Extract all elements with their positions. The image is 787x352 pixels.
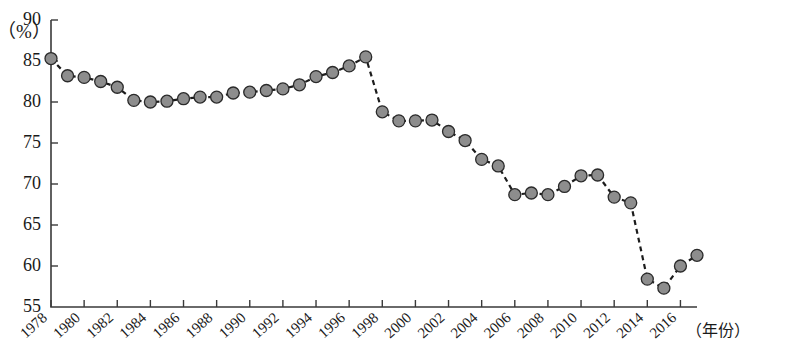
x-axis-tick-label: 1994 bbox=[282, 309, 315, 341]
data-point-marker bbox=[144, 96, 156, 108]
data-point-marker bbox=[691, 249, 703, 261]
data-point-marker bbox=[128, 94, 140, 106]
x-axis-tick-label: 1996 bbox=[315, 309, 348, 341]
data-point-marker bbox=[293, 79, 305, 91]
data-point-marker bbox=[658, 282, 670, 294]
y-axis-tick-label: 80 bbox=[23, 91, 41, 111]
data-point-marker bbox=[343, 60, 355, 72]
data-point-marker bbox=[360, 51, 372, 63]
axis-frame bbox=[51, 20, 697, 307]
data-point-marker bbox=[641, 273, 653, 285]
y-axis-tick-label: 75 bbox=[23, 132, 41, 152]
x-axis-tick-label: 1998 bbox=[348, 309, 381, 341]
data-point-marker bbox=[95, 76, 107, 88]
data-point-marker bbox=[575, 170, 587, 182]
data-point-marker bbox=[625, 197, 637, 209]
data-point-marker bbox=[443, 126, 455, 138]
x-axis-tick-label: 2006 bbox=[481, 309, 514, 341]
data-point-marker bbox=[509, 189, 521, 201]
data-point-marker bbox=[178, 93, 190, 105]
data-point-marker bbox=[161, 95, 173, 107]
x-axis-tick-label: 2012 bbox=[580, 309, 613, 341]
data-point-marker bbox=[393, 115, 405, 127]
x-axis-tick-label: 2004 bbox=[448, 309, 481, 341]
data-point-marker bbox=[459, 135, 471, 147]
data-point-marker bbox=[211, 91, 223, 103]
x-axis-tick-label: 1982 bbox=[83, 309, 116, 341]
data-point-marker bbox=[194, 91, 206, 103]
x-axis-tick-label: 2002 bbox=[415, 309, 448, 341]
data-point-marker bbox=[45, 53, 57, 65]
data-point-marker bbox=[674, 260, 686, 272]
data-point-marker bbox=[111, 81, 123, 93]
y-axis-tick-label: 65 bbox=[23, 214, 41, 234]
data-point-marker bbox=[62, 70, 74, 82]
data-point-marker bbox=[558, 180, 570, 192]
data-series-markers bbox=[45, 51, 703, 294]
data-point-marker bbox=[327, 66, 339, 78]
chart-container: 5560657075808590 19781980198219841986198… bbox=[0, 0, 787, 352]
x-axis-tick-label: 2010 bbox=[547, 309, 580, 341]
x-axis-tick-label: 1988 bbox=[183, 309, 216, 341]
x-axis-tick-label: 1984 bbox=[116, 309, 149, 341]
x-axis-tick-label: 2000 bbox=[381, 309, 414, 341]
data-point-marker bbox=[492, 160, 504, 172]
data-point-marker bbox=[608, 191, 620, 203]
x-axis-tick-labels: 1978198019821984198619881990199219941996… bbox=[17, 309, 680, 341]
data-point-marker bbox=[426, 114, 438, 126]
data-point-marker bbox=[376, 106, 388, 118]
x-axis-tick-label: 2016 bbox=[646, 309, 679, 341]
y-axis-tick-label: 90 bbox=[23, 9, 41, 29]
data-point-marker bbox=[260, 85, 272, 97]
data-point-marker bbox=[592, 169, 604, 181]
x-axis-tick-label: 1986 bbox=[150, 309, 183, 341]
data-point-marker bbox=[409, 115, 421, 127]
y-axis-tick-label: 70 bbox=[23, 173, 41, 193]
x-axis-tick-label: 1992 bbox=[249, 309, 282, 341]
x-axis-tick-label: 1978 bbox=[17, 309, 50, 341]
x-axis-tick-marks bbox=[51, 300, 680, 307]
data-point-marker bbox=[227, 87, 239, 99]
data-point-marker bbox=[277, 83, 289, 95]
y-axis-tick-label: 85 bbox=[23, 50, 41, 70]
x-axis-tick-label: 1990 bbox=[216, 309, 249, 341]
line-chart: 5560657075808590 19781980198219841986198… bbox=[0, 0, 787, 352]
y-axis-tick-label: 60 bbox=[23, 255, 41, 275]
data-point-marker bbox=[244, 86, 256, 98]
data-point-marker bbox=[542, 189, 554, 201]
data-point-marker bbox=[78, 71, 90, 83]
x-axis-tick-label: 1980 bbox=[50, 309, 83, 341]
data-point-marker bbox=[310, 71, 322, 83]
y-axis-tick-labels: 5560657075808590 bbox=[23, 9, 41, 316]
data-point-marker bbox=[476, 153, 488, 165]
data-point-marker bbox=[525, 187, 537, 199]
x-axis-tick-label: 2014 bbox=[613, 309, 646, 341]
x-axis-tick-label: 2008 bbox=[514, 309, 547, 341]
